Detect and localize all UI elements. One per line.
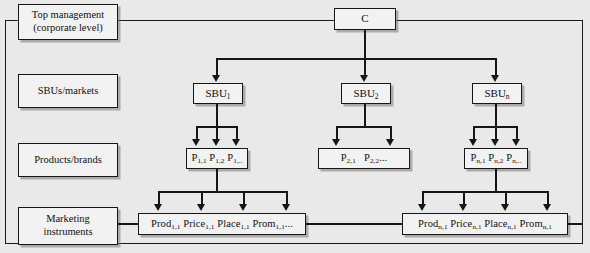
node-products-sbu2: P2,1 P2,2 ... [318, 148, 410, 169]
marketing-item: Prom1,1 [252, 218, 284, 231]
level-label-top-management: Top management (corporate level) [18, 4, 118, 40]
arrowhead-sbu1-p1 [192, 139, 200, 146]
product-item: P1,.. [227, 152, 242, 165]
products-sbu1-items: P1,1 P1,2 P1,.. [187, 152, 247, 165]
level-label-products-brands: Products/brands [18, 143, 118, 177]
products-sbun-items: Pn,1 Pn,2 Pn,.. [465, 152, 527, 165]
level-label-line1: SBUs/markets [38, 85, 99, 98]
diagram-canvas: Top management (corporate level) SBUs/ma… [0, 0, 590, 253]
level-label-line1: Products/brands [34, 154, 102, 167]
arrowhead-sbun-p1 [469, 139, 477, 146]
node-sbu-n-label: SBUn [484, 87, 509, 100]
marketing-item-trail: ... [285, 218, 293, 231]
node-corporate: C [334, 8, 396, 30]
connector-p11-bus [158, 191, 286, 193]
arrowhead-sbu2-p2 [386, 139, 394, 146]
arrowhead-p11-prod [154, 204, 162, 211]
node-marketing-pn1: Prodn,1 Pricen,1 Placen,1 Promn,1 [402, 213, 568, 235]
arrowhead-to-sbun [491, 75, 499, 82]
marketing-item: Pricen,1 [450, 218, 481, 231]
arrowhead-p11-place [239, 204, 247, 211]
arrowhead-pn1-place [501, 204, 509, 211]
node-products-sbun: Pn,1 Pn,2 Pn,.. [464, 148, 528, 169]
arrowhead-pn1-price [459, 204, 467, 211]
product-item: Pn,.. [506, 152, 521, 165]
marketing-p11-items: Prod1,1 Price1,1 Place1,1 Prom1,1 ... [139, 218, 305, 231]
connector-box1-to-box2 [305, 223, 403, 225]
node-sbu-1: SBU1 [193, 83, 243, 104]
level-label-sbus-markets: SBUs/markets [18, 74, 118, 108]
connector-p11-stem [216, 169, 218, 191]
marketing-item: Promn,1 [520, 218, 552, 231]
product-item: Pn,2 [488, 152, 503, 165]
connector-pn1-stem [495, 169, 497, 191]
products-sbu2-items: P2,1 P2,2 ... [319, 152, 409, 165]
level-label-marketing-instruments: Marketing instruments [18, 207, 118, 245]
level-label-line1: Top management [32, 9, 104, 22]
connector-sbu2-stem [364, 104, 366, 126]
connector-corporate-bus [216, 58, 497, 60]
connector-marketing-label-to-box1 [118, 223, 139, 225]
level-label-line1: Marketing [44, 213, 93, 226]
marketing-item: Prodn,1 [418, 218, 447, 231]
arrowhead-sbun-p2 [491, 139, 499, 146]
connector-pn1-bus [422, 191, 548, 193]
node-sbu-1-label: SBU1 [205, 87, 230, 100]
level-label-line2: (corporate level) [32, 22, 104, 35]
marketing-item: Price1,1 [183, 218, 214, 231]
arrowhead-to-sbu1 [212, 75, 220, 82]
product-item: Pn,1 [470, 152, 485, 165]
node-sbu-2-label: SBU2 [353, 87, 378, 100]
arrowhead-sbu1-p2 [212, 139, 220, 146]
marketing-item: Place1,1 [217, 218, 249, 231]
arrowhead-pn1-prom [543, 204, 551, 211]
product-item: P1,2 [209, 152, 224, 165]
arrowhead-pn1-prod [418, 204, 426, 211]
product-item-trail: ... [379, 152, 387, 165]
arrowhead-to-sbu2 [360, 75, 368, 82]
product-item: P2,1 [341, 152, 356, 165]
arrowhead-p11-price [197, 204, 205, 211]
arrowhead-sbu2-p1 [332, 139, 340, 146]
node-corporate-label: C [361, 12, 368, 25]
marketing-pn1-items: Prodn,1 Pricen,1 Placen,1 Promn,1 [403, 218, 567, 231]
node-sbu-2: SBU2 [341, 83, 391, 104]
connector-sbu1-stem [216, 104, 218, 126]
connector-box2-to-frame [567, 223, 583, 225]
arrowhead-sbun-p3 [512, 139, 520, 146]
level-label-line2: instruments [44, 226, 93, 239]
arrowhead-p11-prom [282, 204, 290, 211]
product-item: P2,2 [364, 152, 379, 165]
marketing-item: Prod1,1 [151, 218, 180, 231]
marketing-item: Placen,1 [484, 218, 516, 231]
connector-sbu2-bus [336, 126, 392, 128]
connector-corporate-stem [364, 30, 366, 59]
node-products-sbu1: P1,1 P1,2 P1,.. [186, 148, 248, 169]
arrowhead-sbu1-p3 [232, 139, 240, 146]
node-sbu-n: SBUn [472, 83, 522, 104]
product-item: P1,1 [191, 152, 206, 165]
node-marketing-p11: Prod1,1 Price1,1 Place1,1 Prom1,1 ... [138, 213, 306, 235]
connector-sbun-stem [495, 104, 497, 126]
